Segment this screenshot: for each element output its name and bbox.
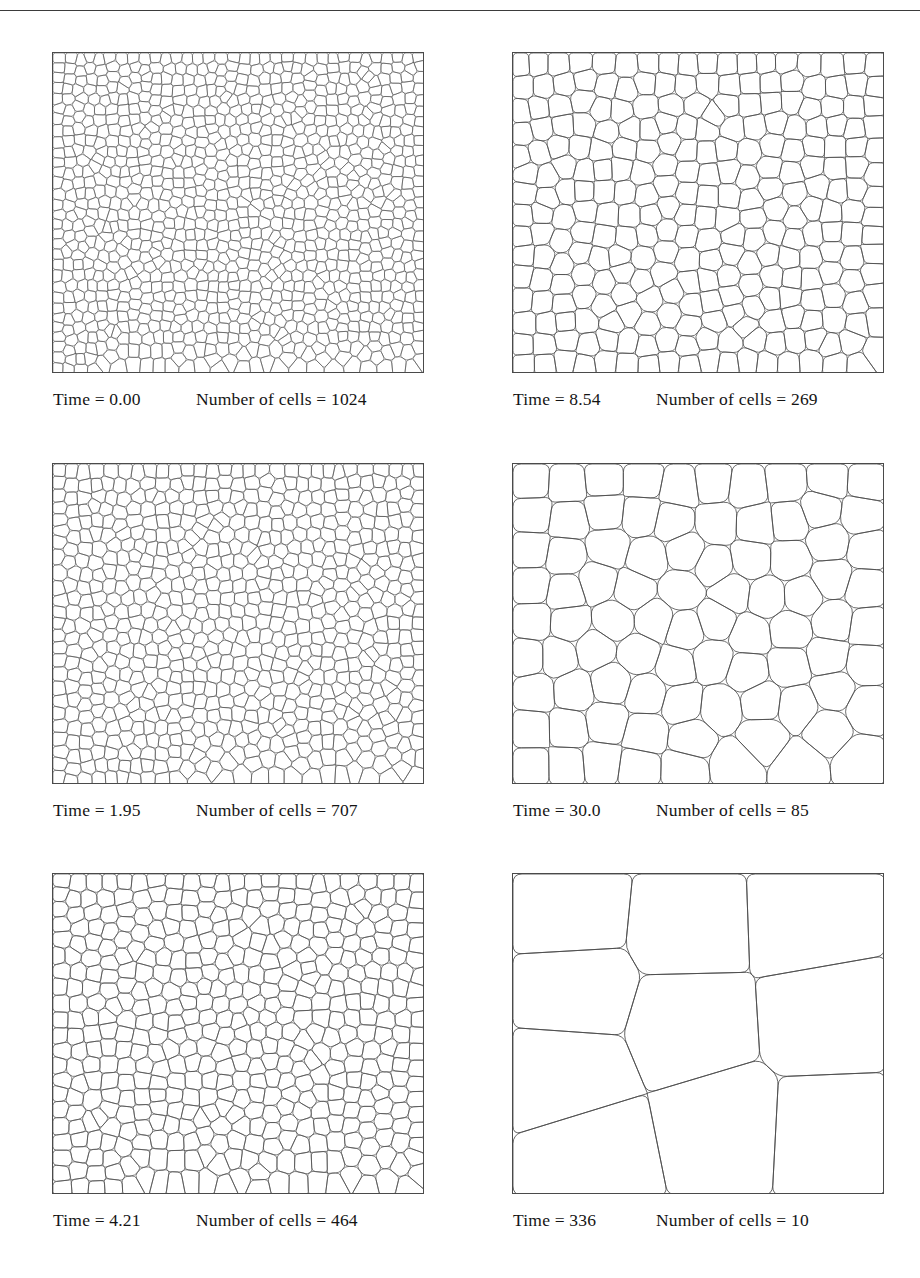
panel-caption-1: Time = 0.00Number of cells = 1024 [53,389,367,409]
cell-structure-plot-6 [512,873,884,1194]
caption-cell-count-label: Number of cells = 10 [656,1210,809,1230]
caption-time-label: Time = 336 [513,1210,656,1230]
caption-time-label: Time = 1.95 [53,800,196,820]
cell-structure-plot-1 [52,52,424,373]
caption-time-label: Time = 8.54 [513,389,656,409]
panel-caption-4: Time = 30.0Number of cells = 85 [513,800,809,820]
caption-time-label: Time = 4.21 [53,1210,196,1230]
caption-cell-count-label: Number of cells = 464 [196,1210,358,1230]
panel-caption-3: Time = 1.95Number of cells = 707 [53,800,358,820]
caption-cell-count-label: Number of cells = 269 [656,389,818,409]
cell-structure-plot-3 [52,463,424,784]
caption-time-label: Time = 0.00 [53,389,196,409]
cell-structure-plot-4 [512,463,884,784]
panel-caption-2: Time = 8.54Number of cells = 269 [513,389,818,409]
caption-cell-count-label: Number of cells = 1024 [196,389,367,409]
caption-cell-count-label: Number of cells = 85 [656,800,809,820]
cell-structure-plot-2 [512,52,884,373]
panel-caption-5: Time = 4.21Number of cells = 464 [53,1210,358,1230]
caption-cell-count-label: Number of cells = 707 [196,800,358,820]
panel-caption-6: Time = 336Number of cells = 10 [513,1210,809,1230]
caption-time-label: Time = 30.0 [513,800,656,820]
figure-page: Time = 0.00Number of cells = 1024Time = … [0,0,920,1278]
panel-grid: Time = 0.00Number of cells = 1024Time = … [0,0,920,1278]
cell-structure-plot-5 [52,873,424,1194]
